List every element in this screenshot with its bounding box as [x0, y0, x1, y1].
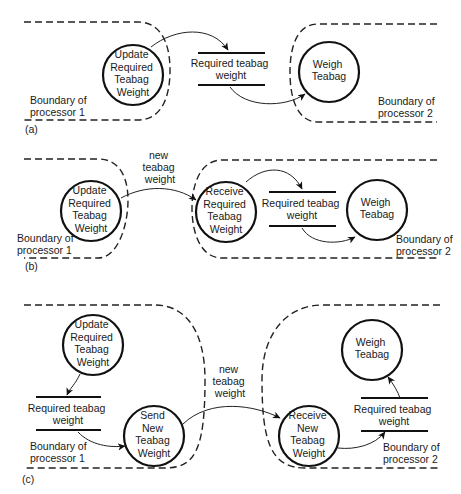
process-label: Weigh Teabag — [312, 58, 347, 82]
flow-store2-to-weigh — [388, 377, 400, 398]
process-label: Receive Required Teabag Weight — [203, 185, 249, 235]
flow-store-to-weigh — [302, 228, 355, 242]
panel-label: (c) — [22, 473, 34, 485]
flow-new-teabag-weight — [183, 406, 280, 424]
flow-update-to-store1 — [67, 374, 80, 395]
process-label: Send New Teabag Weight — [135, 409, 172, 459]
boundary-label-processor-1: Boundary of processor 1 — [30, 94, 90, 118]
boundary-label-processor-2: Boundary of processor 2 — [383, 441, 443, 465]
boundary-label-processor-1: Boundary of processor 1 — [17, 232, 77, 256]
panel-label: (a) — [25, 123, 38, 135]
flow-receive-to-store2 — [338, 432, 385, 448]
dataflow-diagram-figure: Update Required Teabag Weight Required t… — [0, 0, 461, 494]
flow-label-new-teabag-weight: new teabag weight — [142, 149, 177, 185]
process-label: Update Required Teabag Weight — [70, 318, 116, 368]
process-label: Receive New Teabag Weight — [289, 409, 330, 459]
flow-new-teabag-weight — [121, 188, 196, 200]
flow-label-new-teabag-weight: new teabag weight — [212, 363, 247, 399]
process-label: Weigh Teabag — [360, 196, 395, 220]
flow-receive-to-store — [246, 170, 302, 189]
process-label: Update Required Teabag Weight — [68, 184, 114, 234]
data-store-required-teabag-weight: Required teabag weight — [191, 57, 272, 81]
data-store-required-teabag-weight: Required teabag weight — [354, 403, 435, 427]
panel-a: Update Required Teabag Weight Required t… — [24, 22, 438, 135]
flow-update-to-store — [151, 32, 228, 50]
boundary-label-processor-1: Boundary of processor 1 — [30, 440, 90, 464]
boundary-label-processor-2: Boundary of processor 2 — [396, 233, 456, 257]
process-label: Update Required Teabag Weight — [110, 48, 156, 98]
data-store-required-teabag-weight: Required teabag weight — [28, 402, 109, 426]
panel-c: new teabag weight Update Required Teabag… — [22, 305, 443, 485]
data-store-required-teabag-weight: Required teabag weight — [262, 197, 343, 221]
panel-b: new teabag weight Update Required Teabag… — [17, 149, 456, 272]
boundary-label-processor-2: Boundary of processor 2 — [378, 95, 438, 119]
process-label: Weigh Teabag — [355, 336, 390, 360]
panel-label: (b) — [25, 260, 38, 272]
